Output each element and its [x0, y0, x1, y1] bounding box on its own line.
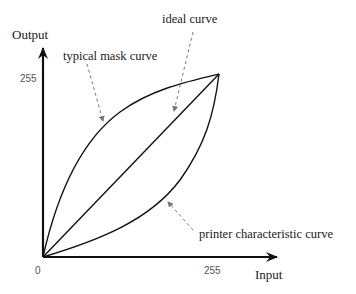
- origin-tick: 0: [35, 266, 41, 276]
- ideal-annotation-arrow: [174, 32, 193, 111]
- typical-mask-curve-label: typical mask curve: [63, 50, 157, 63]
- printer-annotation-arrow: [168, 202, 193, 230]
- diagram-svg: [0, 0, 356, 294]
- diagram: Output Input 255 255 0 typical mask curv…: [0, 0, 356, 294]
- typical-annotation-arrow: [87, 64, 103, 121]
- y-tick-255: 255: [20, 74, 37, 84]
- printer-characteristic-curve-label: printer characteristic curve: [199, 228, 333, 241]
- ideal-curve-label: ideal curve: [162, 13, 217, 26]
- x-axis-title: Input: [255, 268, 282, 281]
- x-tick-255: 255: [204, 266, 221, 276]
- y-axis-title: Output: [12, 28, 48, 41]
